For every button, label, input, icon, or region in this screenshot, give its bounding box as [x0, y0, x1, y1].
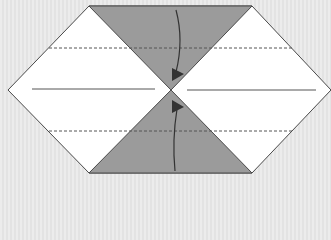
origami-diagram — [0, 0, 331, 187]
